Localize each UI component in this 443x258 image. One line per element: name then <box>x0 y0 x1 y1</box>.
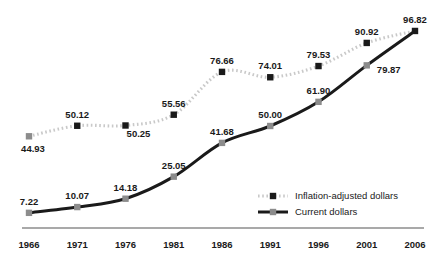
data-label: 76.66 <box>210 55 234 66</box>
series-line <box>29 31 415 136</box>
line-chart: 19661971197619811986199119962001200644.9… <box>0 0 443 258</box>
data-point-marker <box>74 123 80 129</box>
data-label: 96.82 <box>403 14 427 25</box>
x-tick-label: 1971 <box>67 239 89 250</box>
x-tick-label: 2001 <box>356 239 378 250</box>
data-label: 50.25 <box>127 128 151 139</box>
data-label: 44.93 <box>21 143 45 154</box>
data-point-marker <box>171 173 177 179</box>
data-point-marker <box>364 40 370 46</box>
data-point-marker <box>315 63 321 69</box>
series-inflation-adjusted <box>29 31 415 136</box>
chart-plot-area: 19661971197619811986199119962001200644.9… <box>0 0 443 258</box>
legend-label: Current dollars <box>295 206 358 217</box>
legend: Inflation-adjusted dollarsCurrent dollar… <box>258 190 398 217</box>
x-tick-label: 1976 <box>115 239 136 250</box>
x-tick-label: 1996 <box>308 239 329 250</box>
data-point-marker <box>267 74 273 80</box>
data-point-marker <box>171 112 177 118</box>
data-label: 50.12 <box>65 109 89 120</box>
x-tick-label: 2006 <box>404 239 425 250</box>
data-label: 55.56 <box>162 98 186 109</box>
data-point-marker <box>26 133 32 139</box>
x-tick-labels: 196619711976198119861991199620012006 <box>18 239 425 250</box>
x-tick-label: 1986 <box>211 239 232 250</box>
x-tick-label: 1966 <box>18 239 39 250</box>
data-point-marker <box>315 99 321 105</box>
data-label: 74.01 <box>258 60 282 71</box>
legend-item: Current dollars <box>258 206 358 217</box>
legend-label: Inflation-adjusted dollars <box>295 190 398 201</box>
data-label: 10.07 <box>65 190 89 201</box>
data-point-marker <box>219 140 225 146</box>
data-point-marker <box>122 196 128 202</box>
data-point-marker <box>26 210 32 216</box>
data-label: 50.00 <box>258 109 282 120</box>
data-point-marker <box>412 28 418 34</box>
legend-marker-swatch <box>270 193 276 199</box>
data-label: 41.68 <box>210 126 234 137</box>
data-label: 7.22 <box>20 196 39 207</box>
data-point-marker <box>74 204 80 210</box>
x-tick-label: 1991 <box>260 239 282 250</box>
data-label: 79.53 <box>307 49 331 60</box>
data-label: 61.90 <box>307 85 331 96</box>
legend-item: Inflation-adjusted dollars <box>258 190 398 201</box>
legend-marker-swatch <box>270 209 276 215</box>
data-point-marker <box>267 123 273 129</box>
data-label: 25.05 <box>162 160 186 171</box>
data-label: 14.18 <box>114 182 138 193</box>
data-point-marker <box>219 69 225 75</box>
data-label: 79.87 <box>377 64 401 75</box>
data-label: 90.92 <box>355 26 379 37</box>
x-tick-label: 1981 <box>163 239 185 250</box>
data-point-marker <box>364 62 370 68</box>
